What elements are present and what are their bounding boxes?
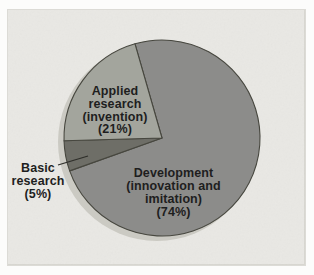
- label-line: (74%): [113, 206, 234, 219]
- label-line: research: [55, 98, 175, 111]
- label-line: Basic: [0, 162, 88, 175]
- label-development: Development (innovation and imitation) (…: [113, 167, 234, 219]
- label-applied-research: Applied research (invention) (21%): [55, 85, 175, 136]
- pie-chart: [0, 0, 314, 275]
- label-basic-research: Basic research (5%): [0, 162, 88, 200]
- label-line: research: [0, 175, 88, 188]
- label-line: (21%): [55, 123, 175, 136]
- figure-page: Applied research (invention) (21%) Devel…: [0, 0, 314, 275]
- label-line: Applied: [55, 85, 175, 98]
- label-line: (5%): [0, 188, 88, 201]
